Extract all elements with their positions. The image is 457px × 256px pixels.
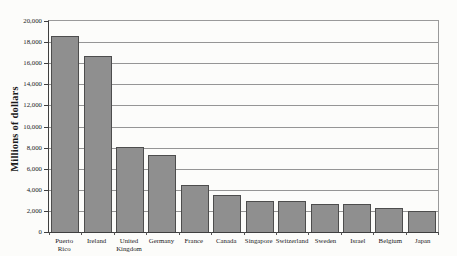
y-axis-tick-label: 20,000: [0, 17, 44, 25]
y-axis-tick-label: 12,000: [0, 101, 44, 109]
x-axis-tick: [179, 232, 180, 235]
bar-belgium: [375, 208, 403, 232]
x-axis-tick: [438, 232, 439, 235]
y-axis-tick-label: 10,000: [0, 123, 44, 131]
bar-sweden: [311, 204, 339, 232]
x-axis-label-israel: Israel: [342, 237, 374, 252]
bar-singapore: [246, 201, 274, 232]
y-axis-tick-label: 4,000: [0, 186, 44, 194]
bar-slot-switzerland: [276, 21, 308, 232]
x-axis-label-japan: Japan: [407, 237, 439, 252]
bar-slot-canada: [211, 21, 243, 232]
y-axis-tick-labels: 20,00018,00016,00014,00012,00010,0008,00…: [0, 20, 44, 233]
x-axis-tick: [341, 232, 342, 235]
bar-slot-ireland: [81, 21, 113, 232]
y-axis-tick-label: 8,000: [0, 144, 44, 152]
bar-series: [49, 21, 438, 232]
y-axis-tick-label: 0: [0, 228, 44, 236]
y-axis-tick: [44, 232, 48, 233]
x-axis-label-switzerland: Switzerland: [275, 237, 309, 252]
bar-israel: [343, 204, 371, 232]
bar-slot-germany: [146, 21, 178, 232]
bar-slot-france: [179, 21, 211, 232]
bar-chart-figure: Millions of dollars 20,00018,00016,00014…: [0, 0, 457, 256]
bar-puerto-rico: [51, 36, 79, 232]
y-axis-tick: [44, 169, 48, 170]
y-axis-tick-label: 14,000: [0, 80, 44, 88]
x-axis-tick: [276, 232, 277, 235]
x-axis-label-puerto-rico: Puerto Rico: [48, 237, 80, 252]
x-axis-tick: [244, 232, 245, 235]
y-axis-tick: [44, 21, 48, 22]
bar-japan: [408, 211, 436, 232]
bar-slot-israel: [341, 21, 373, 232]
y-axis-tick: [44, 190, 48, 191]
x-axis-label-singapore: Singapore: [242, 237, 274, 252]
bar-switzerland: [278, 201, 306, 232]
y-axis-tick-label: 2,000: [0, 207, 44, 215]
y-axis-tick: [44, 63, 48, 64]
x-axis-label-belgium: Belgium: [374, 237, 406, 252]
x-axis-label-ireland: Ireland: [80, 237, 112, 252]
bar-slot-singapore: [244, 21, 276, 232]
y-axis-tick: [44, 148, 48, 149]
x-axis-label-germany: Germany: [145, 237, 177, 252]
x-axis-tick: [114, 232, 115, 235]
y-axis-tick: [44, 211, 48, 212]
x-axis-label-united-kingdom: United Kingdom: [113, 237, 145, 252]
bar-canada: [213, 195, 241, 232]
bar-germany: [148, 155, 176, 232]
y-axis-tick: [44, 105, 48, 106]
x-axis-label-sweden: Sweden: [309, 237, 341, 252]
x-axis-tick: [211, 232, 212, 235]
bar-slot-sweden: [308, 21, 340, 232]
x-axis-tick: [146, 232, 147, 235]
y-axis-tick: [44, 42, 48, 43]
bar-france: [181, 185, 209, 232]
y-axis-tick-label: 18,000: [0, 38, 44, 46]
x-axis-label-france: France: [178, 237, 210, 252]
bar-ireland: [84, 56, 112, 232]
bar-united-kingdom: [116, 147, 144, 232]
bar-slot-belgium: [373, 21, 405, 232]
y-axis-tick-label: 16,000: [0, 59, 44, 67]
x-axis-tick: [373, 232, 374, 235]
x-axis-tick: [406, 232, 407, 235]
bar-slot-united-kingdom: [114, 21, 146, 232]
bar-slot-puerto-rico: [49, 21, 81, 232]
y-axis-tick: [44, 84, 48, 85]
bar-slot-japan: [406, 21, 438, 232]
x-axis-category-labels: Puerto RicoIrelandUnited KingdomGermanyF…: [48, 237, 439, 252]
y-axis-tick: [44, 127, 48, 128]
x-axis-label-canada: Canada: [210, 237, 242, 252]
plot-area: [48, 20, 439, 233]
x-axis-tick: [308, 232, 309, 235]
x-axis-tick: [49, 232, 50, 235]
x-axis-tick: [81, 232, 82, 235]
y-axis-tick-label: 6,000: [0, 165, 44, 173]
